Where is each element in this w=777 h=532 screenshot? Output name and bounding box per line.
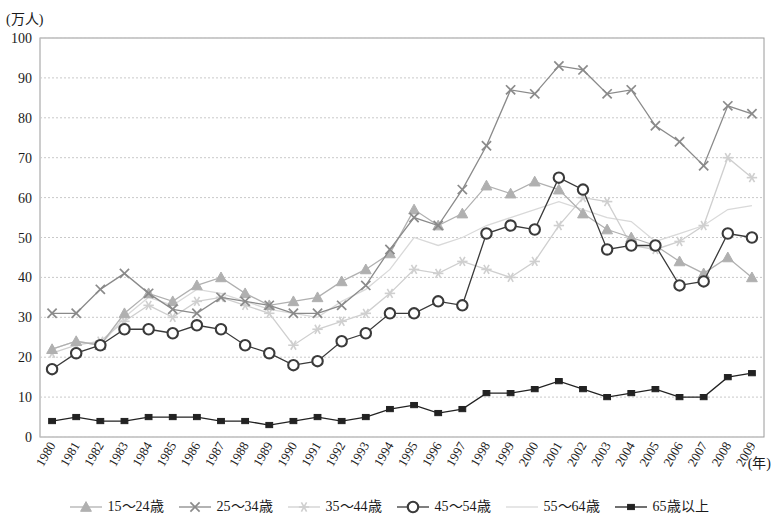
data-point-square: [724, 375, 731, 380]
x-axis-tick-label: 1989: [250, 439, 276, 469]
data-point-circle: [505, 220, 515, 230]
circle-marker: [407, 502, 417, 512]
data-point-square: [338, 418, 345, 423]
square-marker: [290, 418, 297, 423]
data-point-square: [121, 418, 128, 423]
x-axis-tick-label: 2000: [515, 439, 541, 469]
circle-marker: [216, 324, 226, 334]
circle-marker: [698, 276, 708, 286]
y-axis-tick-label: 50: [18, 231, 32, 246]
x-axis-tick-label: 1997: [443, 439, 469, 469]
square-marker: [435, 410, 442, 415]
circle-marker: [554, 172, 564, 182]
circle-marker: [71, 348, 81, 358]
data-point-circle: [650, 240, 660, 250]
x-axis-tick-label: 1984: [129, 439, 155, 469]
data-point-square: [507, 391, 514, 396]
legend-label: 65歳以上: [653, 500, 709, 514]
circle-marker: [626, 240, 636, 250]
y-axis-tick-label: 60: [18, 191, 32, 206]
y-axis-tick-label: 70: [18, 151, 32, 166]
square-marker: [49, 418, 56, 423]
legend-label: 35～44歳: [326, 500, 382, 514]
square-marker: [555, 379, 562, 384]
x-axis-tick-label: 1982: [81, 439, 107, 469]
square-marker: [387, 406, 394, 411]
data-point-square: [169, 414, 176, 419]
y-axis-tick-label: 90: [18, 71, 32, 86]
data-point-square: [604, 395, 611, 400]
circle-marker: [723, 228, 733, 238]
data-point-circle: [723, 228, 733, 238]
x-axis-tick-label: 1994: [371, 439, 397, 469]
data-point-circle: [457, 300, 467, 310]
data-point-square: [531, 387, 538, 392]
data-point-square: [749, 371, 756, 376]
data-point-square: [627, 504, 634, 509]
circle-marker: [674, 280, 684, 290]
legend-item-2[interactable]: 25～34歳: [178, 500, 273, 514]
circle-marker: [336, 336, 346, 346]
square-marker: [580, 387, 587, 392]
square-marker: [73, 414, 80, 419]
legend-item-3[interactable]: 35～44歳: [287, 500, 382, 514]
data-point-square: [97, 418, 104, 423]
x-axis-tick-label: 2005: [636, 439, 662, 469]
square-marker: [338, 418, 345, 423]
x-axis-tick-label: 1999: [491, 439, 517, 469]
data-point-circle: [216, 324, 226, 334]
legend-marker-square-icon: [614, 500, 648, 514]
square-marker: [749, 371, 756, 376]
legend-label: 55～64歳: [544, 500, 600, 514]
x-axis-tick-label: 1985: [153, 439, 179, 469]
square-marker: [362, 414, 369, 419]
square-marker: [314, 414, 321, 419]
legend-label: 45～54歳: [435, 500, 491, 514]
chart-legend: 15～24歳25～34歳35～44歳45～54歳55～64歳65歳以上: [0, 500, 777, 514]
circle-marker: [409, 308, 419, 318]
data-point-circle: [240, 340, 250, 350]
square-marker: [483, 391, 490, 396]
square-marker: [218, 418, 225, 423]
data-point-circle: [578, 184, 588, 194]
line-chart-plot: 0102030405060708090100198019811982198319…: [0, 0, 777, 500]
x-axis-tick-label: 1987: [202, 439, 228, 469]
circle-marker: [143, 324, 153, 334]
data-point-circle: [554, 172, 564, 182]
data-point-circle: [288, 360, 298, 370]
legend-marker-asterisk-icon: [287, 500, 321, 514]
circle-marker: [192, 320, 202, 330]
y-axis-tick-label: 80: [18, 111, 32, 126]
x-axis-tick-label: 1986: [177, 439, 203, 469]
data-point-square: [73, 414, 80, 419]
data-point-circle: [409, 308, 419, 318]
circle-marker: [119, 324, 129, 334]
circle-marker: [578, 184, 588, 194]
circle-marker: [457, 300, 467, 310]
legend-item-4[interactable]: 45～54歳: [396, 500, 491, 514]
x-axis-tick-label: 1980: [33, 439, 59, 469]
data-point-circle: [71, 348, 81, 358]
data-point-square: [290, 418, 297, 423]
y-axis-tick-label: 100: [11, 31, 32, 46]
y-axis-tick-label: 40: [18, 270, 32, 285]
x-axis-tick-label: 2002: [564, 439, 590, 469]
data-point-circle: [361, 328, 371, 338]
legend-item-1[interactable]: 15～24歳: [69, 500, 164, 514]
circle-marker: [481, 228, 491, 238]
legend-item-5[interactable]: 55～64歳: [505, 500, 600, 514]
square-marker: [459, 406, 466, 411]
data-point-circle: [407, 502, 417, 512]
x-axis-tick-label: 2003: [588, 439, 614, 469]
legend-item-6[interactable]: 65歳以上: [614, 500, 709, 514]
data-point-square: [362, 414, 369, 419]
circle-marker: [650, 240, 660, 250]
data-point-circle: [264, 348, 274, 358]
square-marker: [507, 391, 514, 396]
data-point-circle: [747, 232, 757, 242]
square-marker: [724, 375, 731, 380]
y-axis-tick-label: 0: [25, 430, 32, 445]
square-marker: [676, 395, 683, 400]
data-point-asterisk: [298, 502, 308, 511]
data-point-circle: [530, 224, 540, 234]
